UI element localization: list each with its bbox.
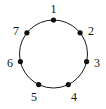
cycle-edge-circle	[20, 20, 88, 88]
vertex-dot-7	[24, 30, 29, 35]
graph-canvas	[0, 0, 106, 109]
vertex-label-1: 1	[47, 3, 61, 15]
vertex-label-2: 2	[84, 25, 98, 37]
vertex-dot-3	[84, 59, 89, 64]
vertex-label-3: 3	[90, 57, 104, 69]
vertex-label-7: 7	[9, 25, 23, 37]
vertex-dot-4	[66, 82, 71, 87]
vertex-dot-6	[18, 59, 23, 64]
vertex-label-5: 5	[27, 91, 41, 103]
vertex-dot-5	[36, 82, 41, 87]
vertex-dot-1	[51, 17, 56, 22]
vertex-label-6: 6	[3, 57, 17, 69]
vertex-label-4: 4	[67, 91, 81, 103]
cycle-graph-figure: 1234567	[0, 0, 106, 109]
vertex-dot-2	[78, 30, 83, 35]
